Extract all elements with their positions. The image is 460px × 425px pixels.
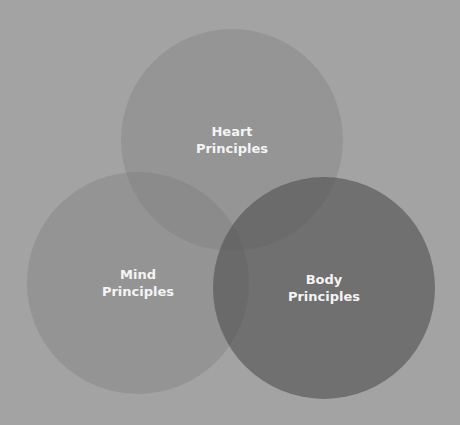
- heart-label-line2: Principles: [196, 140, 268, 157]
- heart-label-line1: Heart: [196, 123, 268, 140]
- body-label-line1: Body: [288, 271, 360, 288]
- heart-label: Heart Principles: [196, 123, 268, 157]
- body-label: Body Principles: [288, 271, 360, 305]
- venn-diagram: Heart Principles Mind Principles Body Pr…: [0, 0, 460, 425]
- mind-label-line2: Principles: [102, 283, 174, 300]
- body-label-line2: Principles: [288, 288, 360, 305]
- mind-label-line1: Mind: [102, 266, 174, 283]
- mind-label: Mind Principles: [102, 266, 174, 300]
